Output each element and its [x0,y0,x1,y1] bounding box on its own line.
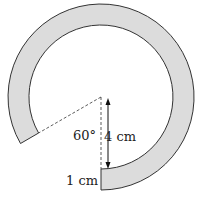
arrow-head-up-icon [106,98,111,105]
arrow-head-down-icon [106,162,111,169]
angle-label: 60° [73,128,96,143]
width-label: 1 cm [66,173,98,188]
height-label: 4 cm [104,129,136,144]
ring-sector-diagram: 60° 4 cm 1 cm [0,0,199,202]
